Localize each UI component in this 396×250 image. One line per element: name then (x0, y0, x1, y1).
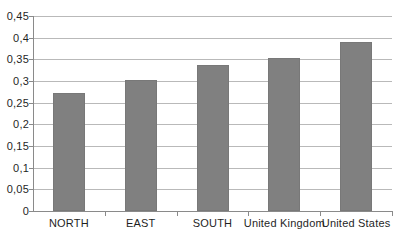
y-axis-tick-label: 0,15 (0, 141, 29, 152)
y-axis-tick-labels: 00,050,10,150,20,250,30,350,40,45 (0, 0, 29, 250)
bar (268, 58, 300, 211)
bar (125, 80, 157, 211)
x-axis-category-label: United States (313, 216, 396, 230)
y-axis-tick-label: 0,2 (0, 119, 29, 130)
x-axis-category-labels: NORTHEASTSOUTHUnited KingdomUnited State… (33, 216, 392, 250)
y-axis-tick-label: 0,05 (0, 184, 29, 195)
y-axis-tick-label: 0 (0, 206, 29, 217)
bar-chart: 00,050,10,150,20,250,30,350,40,45 NORTHE… (0, 0, 396, 250)
y-axis-tick-label: 0,35 (0, 54, 29, 65)
y-axis-tick-mark (29, 211, 34, 212)
gridline (33, 211, 392, 212)
y-axis-tick-label: 0,3 (0, 76, 29, 87)
bars-layer (33, 16, 392, 211)
bar (53, 93, 85, 211)
y-axis-tick-label: 0,1 (0, 163, 29, 174)
y-axis-tick-label: 0,25 (0, 98, 29, 109)
y-axis-tick-label: 0,4 (0, 33, 29, 44)
bar (197, 65, 229, 211)
y-axis-tick-label: 0,45 (0, 11, 29, 22)
bar (340, 42, 372, 211)
